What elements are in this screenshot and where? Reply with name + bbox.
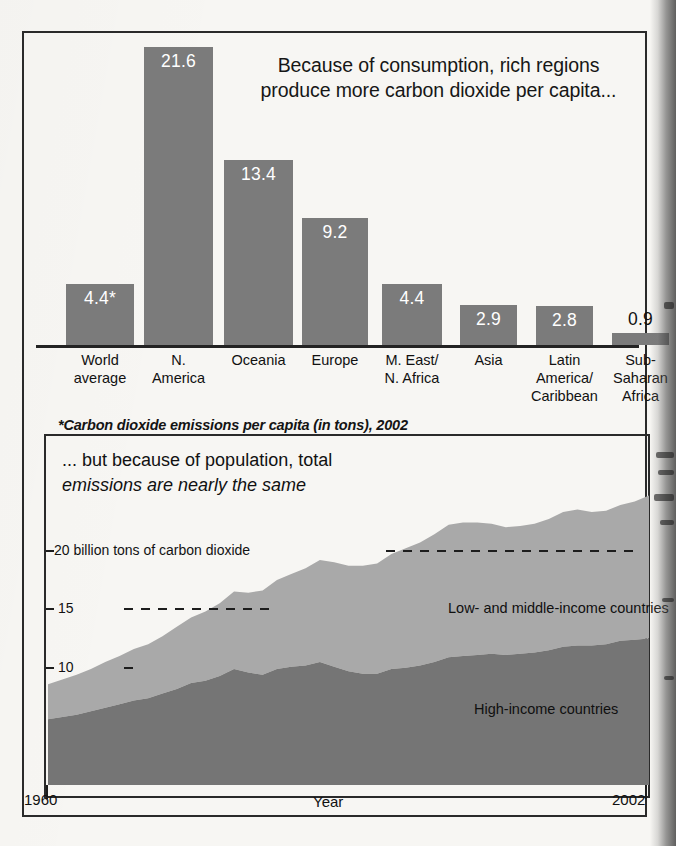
bar-category-label-line: Saharan bbox=[594, 369, 676, 387]
bar-2: 21.6 bbox=[144, 41, 213, 345]
bar-rect bbox=[224, 160, 293, 345]
y-axis-tick-mark bbox=[46, 667, 54, 669]
bar-category-label-line: Africa bbox=[594, 387, 676, 405]
bar-5: 4.4 bbox=[382, 41, 442, 345]
series-label-low-and-middle-income: Low- and middle-income countries bbox=[448, 600, 669, 616]
bar-value-label: 0.9 bbox=[612, 309, 669, 330]
bar-3: 13.4 bbox=[224, 41, 293, 345]
area-chart-plot bbox=[48, 492, 649, 785]
area-chart-title: ... but because of population, total emi… bbox=[62, 448, 332, 498]
bar-1: 4.4* bbox=[66, 41, 134, 345]
area-chart: ... but because of population, total emi… bbox=[44, 434, 650, 798]
y-axis-tick-mark bbox=[46, 608, 54, 610]
bar-chart-baseline bbox=[36, 345, 639, 348]
bar-category-label: Sub-SaharanAfrica bbox=[594, 351, 676, 405]
area-chart-title-line1: ... but because of population, total bbox=[62, 448, 332, 473]
area-chart-svg bbox=[48, 492, 649, 785]
bar-series: 4.4*21.613.49.24.42.92.80.9 bbox=[36, 41, 636, 345]
bar-category-label-line: America bbox=[126, 369, 231, 387]
bar-value-label: 4.4 bbox=[382, 288, 442, 309]
y-axis-dashed-guide bbox=[124, 608, 276, 610]
series-label-high-income: High-income countries bbox=[474, 701, 618, 717]
y-axis-tick-label: 10 bbox=[58, 659, 74, 675]
bar-6: 2.9 bbox=[460, 41, 517, 345]
bar-value-label: 13.4 bbox=[224, 164, 293, 185]
y-axis-tick-mark bbox=[46, 550, 54, 552]
bar-category-label-line: Sub- bbox=[594, 351, 676, 369]
bar-4: 9.2 bbox=[302, 41, 368, 345]
bar-7: 2.8 bbox=[536, 41, 593, 345]
bar-rect bbox=[144, 47, 213, 345]
bar-value-label: 9.2 bbox=[302, 222, 368, 243]
bar-category-label-line: N. Africa bbox=[364, 369, 460, 387]
y-axis-tick-label: 20 billion tons of carbon dioxide bbox=[54, 542, 250, 558]
y-axis-tick-label: 15 bbox=[58, 600, 74, 616]
bar-chart-footnote: *Carbon dioxide emissions per capita (in… bbox=[58, 417, 408, 433]
bar-value-label: 4.4* bbox=[66, 288, 134, 309]
bar-chart: Because of consumption, rich regions pro… bbox=[22, 31, 649, 431]
bar-rect bbox=[612, 333, 669, 345]
bar-8: 0.9 bbox=[612, 41, 669, 345]
y-axis-dashed-guide bbox=[124, 667, 140, 669]
bar-value-label: 21.6 bbox=[144, 51, 213, 72]
bar-value-label: 2.8 bbox=[536, 310, 593, 331]
x-axis-start-label: 1960 bbox=[24, 791, 57, 808]
x-axis-label: Year bbox=[313, 793, 343, 810]
y-axis-dashed-guide bbox=[386, 550, 636, 552]
x-axis-end-label: 2002 bbox=[612, 791, 645, 808]
bar-value-label: 2.9 bbox=[460, 309, 517, 330]
